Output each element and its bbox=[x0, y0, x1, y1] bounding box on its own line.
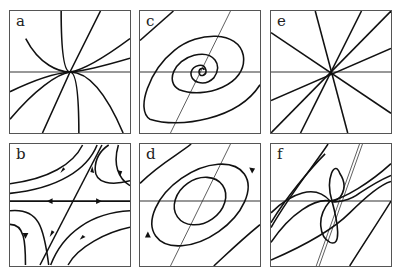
star-node-phase-portrait bbox=[271, 11, 391, 133]
spiral-phase-portrait bbox=[140, 11, 260, 133]
panel-b: b bbox=[9, 143, 131, 267]
saddle-phase-portrait bbox=[10, 144, 130, 266]
panel-d: d bbox=[139, 143, 261, 267]
node-phase-portrait bbox=[10, 11, 130, 133]
panel-f: f bbox=[270, 143, 392, 267]
panel-label-f: f bbox=[277, 145, 283, 163]
panel-label-b: b bbox=[16, 145, 26, 163]
degenerate-node-phase-portrait bbox=[271, 144, 391, 266]
panel-a: a bbox=[9, 10, 131, 134]
center-phase-portrait bbox=[140, 144, 260, 266]
panel-label-e: e bbox=[277, 12, 286, 30]
panel-c: c bbox=[139, 10, 261, 134]
panel-label-d: d bbox=[146, 145, 156, 163]
panel-e: e bbox=[270, 10, 392, 134]
panel-label-c: c bbox=[146, 12, 154, 30]
panel-label-a: a bbox=[16, 12, 25, 30]
